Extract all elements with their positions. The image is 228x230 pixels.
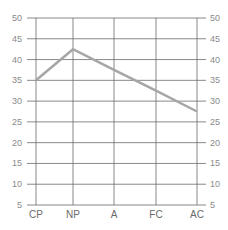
y-tick-label-right: 10	[210, 179, 220, 189]
y-tick-label-right: 20	[210, 138, 220, 148]
x-tick-label: AC	[190, 209, 204, 220]
y-tick-label-right: 50	[210, 13, 220, 23]
y-tick-label-left: 35	[12, 75, 22, 85]
x-axis: CPNPAFCAC	[29, 209, 204, 220]
y-tick-label-left: 20	[12, 138, 22, 148]
y-tick-label-right: 5	[210, 200, 215, 210]
y-tick-label-right: 15	[210, 158, 220, 168]
x-tick-label: CP	[29, 209, 43, 220]
chart-grid	[27, 18, 206, 205]
y-tick-label-right: 40	[210, 55, 220, 65]
y-axis-left: 5101520253035404550	[12, 13, 22, 210]
y-tick-label-right: 45	[210, 34, 220, 44]
x-tick-label: A	[111, 209, 118, 220]
line-chart: 5101520253035404550 5101520253035404550 …	[0, 0, 228, 230]
x-tick-label: NP	[66, 209, 80, 220]
y-tick-label-left: 45	[12, 34, 22, 44]
y-tick-label-left: 10	[12, 179, 22, 189]
y-tick-label-left: 30	[12, 96, 22, 106]
y-tick-label-left: 5	[17, 200, 22, 210]
y-tick-label-left: 15	[12, 158, 22, 168]
y-tick-label-left: 50	[12, 13, 22, 23]
y-tick-label-left: 25	[12, 117, 22, 127]
y-tick-label-right: 30	[210, 96, 220, 106]
y-tick-label-right: 25	[210, 117, 220, 127]
y-axis-right: 5101520253035404550	[210, 13, 220, 210]
x-tick-label: FC	[149, 209, 162, 220]
y-tick-label-right: 35	[210, 75, 220, 85]
y-tick-label-left: 40	[12, 55, 22, 65]
